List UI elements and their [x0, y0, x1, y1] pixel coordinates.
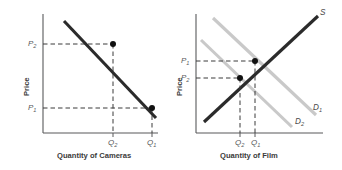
point-a-cameras [110, 41, 116, 47]
ylabel-p2-cameras-sub: 2 [33, 43, 36, 49]
ylabel-p1-cameras: P1 [28, 104, 36, 112]
demand-curve-cameras [64, 21, 156, 118]
point-b-cameras [149, 105, 155, 111]
xlabel-q1-film-sub: 1 [257, 142, 260, 148]
xlabel-q1-cameras-sub: 1 [153, 142, 156, 148]
curve-label-demand-1: D1 [313, 104, 322, 112]
xlabel-q2-film-sub: 2 [241, 142, 244, 148]
equilibrium-2-film [237, 75, 243, 81]
curve-label-supply-base: S [320, 8, 325, 17]
xlabel-q2-film: Q2 [235, 139, 244, 147]
curve-label-supply: S [320, 9, 325, 17]
curve-label-demand-2: D2 [295, 118, 304, 126]
ylabel-p1-cameras-sub: 1 [33, 107, 36, 113]
equilibrium-1-film [252, 58, 258, 64]
ylabel-p2-film-sub: 2 [186, 77, 189, 83]
xlabel-q2-cameras-sub: 2 [114, 142, 117, 148]
xlabel-q1-film: Q1 [251, 139, 260, 147]
ylabel-p2-cameras: P2 [28, 40, 36, 48]
x-axis-title-film: Quantity of Film [220, 152, 278, 160]
supply-curve-film [204, 16, 318, 122]
ylabel-p2-film: P2 [181, 74, 189, 82]
ylabel-p1-film-sub: 1 [186, 60, 189, 66]
panel-cameras: Price P2 P1 Q2 Q1 Quantity of Cameras [0, 0, 171, 170]
curve-label-demand-2-sub: 2 [301, 121, 304, 127]
xlabel-q2-cameras: Q2 [108, 139, 117, 147]
x-axis-title-cameras: Quantity of Cameras [57, 152, 131, 160]
y-axis-title-cameras: Price [23, 77, 31, 96]
figure-canvas: Price P2 P1 Q2 Q1 Quantity of Cameras [0, 0, 342, 170]
xlabel-q1-cameras: Q1 [147, 139, 156, 147]
panel-film: Price P1 P2 Q2 Q1 S D1 D2 Quantity of Fi… [171, 0, 342, 170]
curve-label-demand-1-sub: 1 [319, 107, 322, 113]
ylabel-p1-film: P1 [181, 57, 189, 65]
